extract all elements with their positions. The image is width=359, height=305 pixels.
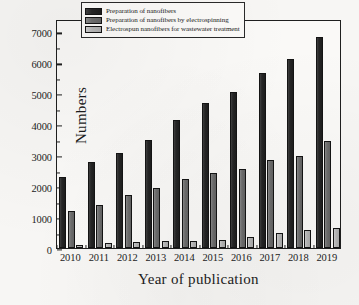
- bar-2015-series-1: [202, 103, 209, 248]
- bar-2010-series-3: [76, 245, 83, 248]
- bar-2016-series-3: [247, 237, 254, 248]
- x-tick-mark-minor: [113, 245, 114, 248]
- legend-label: Electrospun nanofibers for wastewater tr…: [106, 25, 240, 33]
- bar-2010-series-2: [68, 211, 75, 248]
- x-tick-mark-minor: [256, 245, 257, 248]
- y-tick-label: 2000: [31, 183, 52, 194]
- x-tick-label: 2013: [145, 252, 166, 263]
- bar-2018-series-3: [304, 230, 311, 248]
- bar-2013-series-1: [145, 140, 152, 248]
- legend-swatch-icon: [85, 8, 102, 15]
- x-tick-label: 2014: [174, 252, 195, 263]
- bar-2016-series-1: [230, 92, 237, 248]
- x-tick-label: 2010: [60, 252, 81, 263]
- y-tick-label: 4000: [31, 121, 52, 132]
- y-tick-label: 6000: [31, 59, 52, 70]
- x-tick-label: 2018: [288, 252, 309, 263]
- x-tick-label: 2019: [316, 252, 337, 263]
- bar-2012-series-2: [125, 195, 132, 248]
- chart-legend: Preparation of nanofibersPreparation of …: [81, 2, 245, 38]
- bar-2015-series-3: [219, 240, 226, 248]
- x-tick-mark-minor: [170, 245, 171, 248]
- bar-2019-series-3: [333, 228, 340, 248]
- bar-2018-series-1: [287, 59, 294, 248]
- bar-2012-series-3: [133, 242, 140, 248]
- y-tick-label: 7000: [31, 28, 52, 39]
- x-tick-mark-minor: [85, 245, 86, 248]
- legend-label: Preparation of nanofibers by electrospin…: [106, 16, 229, 24]
- y-tick-mark: [57, 33, 62, 34]
- x-tick-mark-minor: [199, 245, 200, 248]
- y-tick-label: 3000: [31, 152, 52, 163]
- bar-2017-series-2: [267, 160, 274, 249]
- chart-figure: Numbers 01000200030004000500060007000 20…: [0, 0, 359, 305]
- legend-swatch-icon: [85, 26, 102, 33]
- bar-2011-series-2: [96, 205, 103, 248]
- bar-2019-series-2: [324, 141, 331, 248]
- y-tick-label: 1000: [31, 214, 52, 225]
- y-tick-mark: [57, 126, 62, 127]
- bar-2015-series-2: [210, 173, 217, 248]
- y-tick-mark-minor: [57, 172, 60, 173]
- bar-2014-series-3: [190, 241, 197, 248]
- x-tick-label: 2017: [259, 252, 280, 263]
- y-tick-mark-minor: [57, 110, 60, 111]
- bar-2010-series-1: [59, 177, 66, 248]
- bar-2012-series-1: [116, 153, 123, 248]
- x-tick-mark-minor: [284, 245, 285, 248]
- legend-item: Preparation of nanofibers: [85, 7, 240, 15]
- y-tick-mark: [57, 249, 62, 250]
- x-tick-label: 2015: [202, 252, 223, 263]
- bar-2011-series-1: [88, 162, 95, 248]
- y-tick-mark-minor: [57, 141, 60, 142]
- y-tick-label: 5000: [31, 90, 52, 101]
- x-tick-mark-minor: [56, 245, 57, 248]
- x-tick-label: 2012: [117, 252, 138, 263]
- y-tick-mark: [57, 157, 62, 158]
- y-tick-mark-minor: [57, 48, 60, 49]
- bar-2017-series-1: [259, 73, 266, 248]
- bar-2013-series-3: [162, 241, 169, 248]
- bar-2013-series-2: [153, 188, 160, 248]
- bar-2011-series-3: [105, 243, 112, 248]
- bar-2016-series-2: [239, 169, 246, 248]
- bar-2018-series-2: [296, 156, 303, 248]
- bar-2014-series-2: [182, 179, 189, 248]
- y-tick-label: 0: [47, 245, 52, 256]
- legend-swatch-icon: [85, 17, 102, 24]
- bar-2019-series-1: [316, 37, 323, 248]
- bar-2014-series-1: [173, 120, 180, 248]
- legend-label: Preparation of nanofibers: [106, 7, 176, 15]
- x-axis-title: Year of publication: [56, 271, 341, 288]
- x-tick-mark-minor: [227, 245, 228, 248]
- y-axis-title: Numbers: [73, 56, 90, 176]
- legend-item: Preparation of nanofibers by electrospin…: [85, 16, 240, 24]
- legend-item: Electrospun nanofibers for wastewater tr…: [85, 25, 240, 33]
- x-tick-label: 2011: [89, 252, 109, 263]
- bar-2017-series-3: [276, 233, 283, 248]
- plot-area: Numbers 01000200030004000500060007000: [56, 20, 341, 249]
- y-tick-mark: [57, 64, 62, 65]
- x-tick-mark-minor: [142, 245, 143, 248]
- y-tick-mark-minor: [57, 79, 60, 80]
- x-tick-label: 2016: [231, 252, 252, 263]
- x-tick-mark-minor: [313, 245, 314, 248]
- y-tick-mark: [57, 95, 62, 96]
